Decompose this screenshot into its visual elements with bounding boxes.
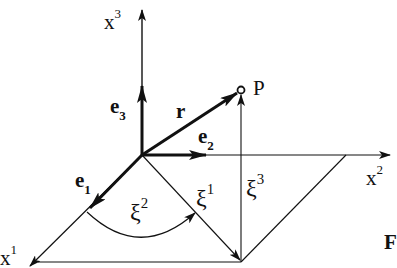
x1-label-base: x	[0, 246, 11, 268]
x3-label-sup: 3	[115, 6, 122, 21]
xi3-label-base: ξ	[246, 175, 257, 201]
e1-label: e1	[75, 170, 91, 191]
e2-label: e2	[198, 126, 214, 147]
xi2-label-sup: 2	[141, 195, 148, 211]
r-label: r	[176, 101, 185, 122]
e3-label: e3	[110, 96, 126, 117]
e3-label-base: e	[110, 94, 119, 118]
p-label: P	[253, 78, 265, 99]
e2-label-sub: 2	[207, 138, 214, 153]
x2-label: x2	[366, 168, 383, 189]
xi1-label: ξ1	[196, 186, 214, 210]
xi2-label-base: ξ	[130, 199, 141, 225]
x3-label: x3	[104, 12, 121, 33]
point-p	[238, 87, 245, 94]
e1-label-base: e	[75, 168, 84, 192]
xi3-label-sup: 3	[257, 171, 264, 187]
xi1-label-base: ξ	[196, 185, 207, 211]
xi1-label-sup: 1	[207, 181, 214, 197]
x2-label-base: x	[366, 166, 377, 190]
xi1-radial	[142, 155, 240, 260]
r-vector	[142, 93, 237, 155]
x1-label: x1	[0, 248, 17, 268]
x2-label-sup: 2	[377, 162, 384, 177]
e3-label-sub: 3	[119, 108, 126, 123]
xi3-label: ξ3	[246, 176, 264, 200]
x1-label-sup: 1	[11, 242, 18, 257]
x3-label-base: x	[104, 10, 115, 34]
e2-label-base: e	[198, 124, 207, 148]
e1-label-sub: 1	[84, 182, 91, 197]
cut-off-caption-letter: F	[384, 232, 397, 253]
xi2-label: ξ2	[130, 200, 148, 224]
